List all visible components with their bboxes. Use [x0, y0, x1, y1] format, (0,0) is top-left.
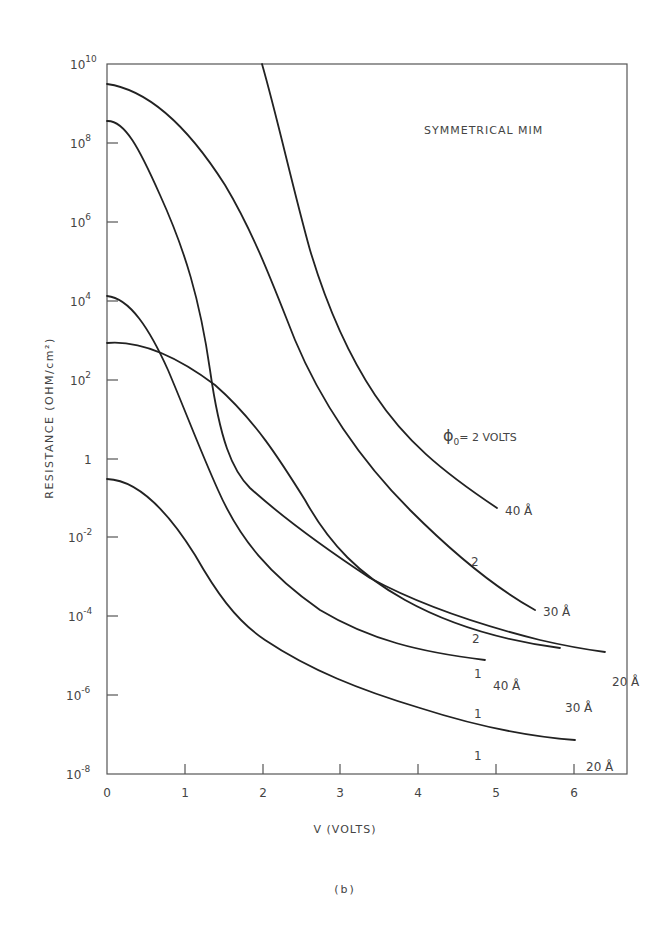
y-tick-1e-6: 10-6: [66, 685, 91, 703]
curve-phi2-30A: [107, 84, 535, 610]
phi-label: ϕ0= 2 VOLTS: [443, 426, 517, 447]
y-tick-1e8: 108: [70, 133, 91, 151]
label-phi2-20A: 20 Å: [612, 674, 640, 689]
svg-text:6: 6: [570, 786, 578, 800]
y-tick-1e10: 1010: [70, 54, 97, 72]
figure-caption: (b): [334, 883, 356, 896]
label-phi2-30A: 30 Å: [543, 604, 571, 619]
annotation-symmetrical-mim: SYMMETRICAL MIM: [424, 124, 543, 137]
x-axis-ticks: [185, 764, 574, 774]
curve-phi2-20A: [107, 121, 605, 652]
svg-text:1: 1: [181, 786, 189, 800]
marker-phi1-20A: 1: [474, 749, 482, 763]
marker-phi2-30A: 2: [471, 555, 479, 569]
svg-text:4: 4: [414, 786, 422, 800]
svg-text:3: 3: [336, 786, 344, 800]
y-tick-1e-8: 10-8: [66, 764, 91, 782]
y-tick-1e4: 104: [70, 291, 91, 309]
label-phi1-30A: 30 Å: [565, 700, 593, 715]
y-axis-ticks: [107, 143, 118, 695]
marker-phi1-30A: 1: [474, 707, 482, 721]
marker-phi2-20A: 2: [472, 632, 480, 646]
y-tick-1e2: 102: [70, 370, 91, 388]
x-axis-title: V (VOLTS): [314, 823, 377, 836]
svg-text:0: 0: [103, 786, 111, 800]
curve-labels: 40 Å 30 Å 20 Å 40 Å 30 Å 20 Å 2 2 1 1 1: [471, 503, 640, 774]
x-tick-labels: 0 1 2 3 4 5 6: [103, 786, 578, 800]
svg-text:2: 2: [259, 786, 267, 800]
label-phi1-40A: 40 Å: [493, 678, 521, 693]
y-tick-labels: 1010 108 106 104 102 1 10-2 10-4 10-6 10…: [66, 54, 97, 782]
y-axis-title: RESISTANCE (OHM/cm²): [43, 337, 56, 498]
y-tick-1e-2: 10-2: [68, 527, 92, 545]
marker-phi1-40A: 1: [474, 667, 482, 681]
label-phi2-40A: 40 Å: [505, 503, 533, 518]
svg-text:5: 5: [492, 786, 500, 800]
y-tick-1: 1: [84, 453, 92, 467]
curves: [107, 64, 605, 740]
y-tick-1e-4: 10-4: [68, 606, 93, 624]
chart-figure: 1010 108 106 104 102 1 10-2 10-4 10-6 10…: [0, 0, 660, 936]
y-tick-1e6: 106: [70, 212, 91, 230]
plot-frame: [107, 64, 627, 774]
label-phi1-20A: 20 Å: [586, 759, 614, 774]
curve-phi1-20A: [107, 479, 575, 740]
